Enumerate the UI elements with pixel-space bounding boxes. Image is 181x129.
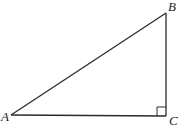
side-ac	[11, 115, 166, 116]
vertex-label-a: A	[0, 109, 9, 124]
side-ab	[11, 13, 166, 115]
vertex-label-c: C	[169, 113, 178, 128]
right-angle-marker	[157, 107, 166, 116]
right-triangle-diagram: A B C	[0, 0, 181, 129]
vertex-label-b: B	[168, 0, 176, 14]
